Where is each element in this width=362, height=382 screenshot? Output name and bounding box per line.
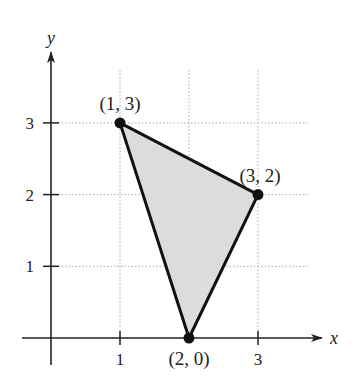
vertex-label: (1, 3) bbox=[99, 93, 140, 115]
y-tick-label: 3 bbox=[26, 114, 35, 133]
triangle-chart: 13123 xy(1, 3)(3, 2)(2, 0) bbox=[0, 0, 362, 382]
x-tick-label: 3 bbox=[254, 350, 263, 369]
y-axis-label: y bbox=[45, 28, 55, 48]
vertex-label: (3, 2) bbox=[239, 165, 280, 187]
vertex-point bbox=[115, 117, 126, 128]
y-tick-label: 2 bbox=[26, 186, 35, 205]
x-axis-label: x bbox=[329, 328, 338, 348]
x-tick-label: 1 bbox=[116, 350, 125, 369]
y-tick-label: 1 bbox=[26, 257, 35, 276]
vertex-point bbox=[253, 189, 264, 200]
vertex-label: (2, 0) bbox=[168, 348, 209, 370]
vertex-point bbox=[184, 333, 195, 344]
